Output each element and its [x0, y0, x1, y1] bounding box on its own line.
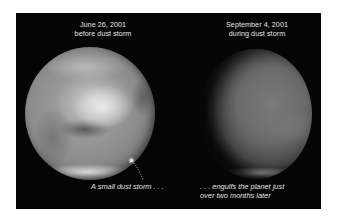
left-caption-text: A small dust storm . . .	[91, 182, 164, 191]
mars-before-storm-image	[25, 47, 155, 180]
figure-panel: June 26, 2001 before dust storm Septembe…	[16, 13, 321, 209]
right-caption: . . . engulfs the planet just over two m…	[200, 182, 284, 201]
left-header: June 26, 2001 before dust storm	[43, 21, 163, 38]
mars-during-storm-image	[200, 49, 312, 179]
right-header: September 4, 2001 during dust storm	[197, 21, 317, 38]
left-caption: A small dust storm . . .	[91, 182, 164, 191]
right-subtitle: during dust storm	[197, 30, 317, 39]
right-caption-line1: . . . engulfs the planet just	[200, 182, 284, 191]
dust-storm-marker	[130, 159, 133, 162]
right-caption-line2: over two months later	[200, 191, 284, 200]
left-subtitle: before dust storm	[43, 30, 163, 39]
